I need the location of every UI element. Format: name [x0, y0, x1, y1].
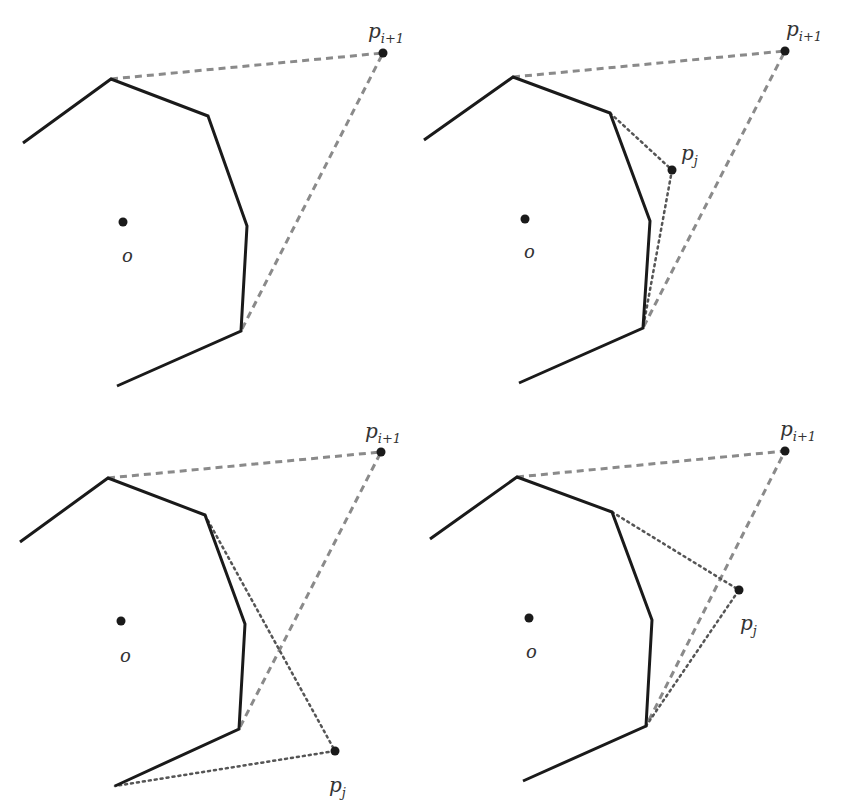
hull-polyline: [430, 477, 652, 781]
hull-polyline: [23, 79, 247, 386]
center-point-o: [119, 218, 128, 227]
point-p-j: [331, 747, 340, 756]
dotted-tangent-lines: [115, 515, 335, 786]
center-label: o: [526, 641, 537, 662]
point-p-i-plus-1: [377, 448, 386, 457]
point-p-j: [735, 586, 744, 595]
point-p-i-plus-1: [379, 49, 388, 58]
panel-bottom-left: opi+1pj: [20, 419, 401, 800]
center-point-o: [521, 215, 530, 224]
center-point-o: [525, 614, 534, 623]
convex-hull-diagram: opi+1opi+1pjopi+1pjopi+1pj: [0, 0, 841, 812]
label-p-i-plus-1: pi+1: [786, 17, 822, 44]
center-label: o: [524, 241, 535, 262]
label-p-j: pj: [329, 773, 346, 800]
hull-polyline: [424, 77, 650, 383]
panel-top-left: opi+1: [23, 19, 404, 386]
hull-polyline: [20, 478, 245, 786]
label-p-i-plus-1: pi+1: [365, 419, 401, 446]
panel-top-right: opi+1pj: [424, 17, 822, 383]
center-point-o: [117, 617, 126, 626]
point-p-j: [668, 166, 677, 175]
label-p-i-plus-1: pi+1: [780, 417, 816, 444]
label-p-i-plus-1: pi+1: [368, 19, 404, 46]
point-p-i-plus-1: [781, 447, 790, 456]
label-p-j: pj: [681, 141, 698, 168]
dotted-tangent-lines: [610, 113, 672, 328]
dotted-tangent-lines: [612, 512, 739, 726]
label-p-j: pj: [740, 611, 757, 638]
center-label: o: [120, 645, 131, 666]
point-p-i-plus-1: [781, 47, 790, 56]
center-label: o: [122, 245, 133, 266]
panel-bottom-right: opi+1pj: [430, 417, 816, 781]
